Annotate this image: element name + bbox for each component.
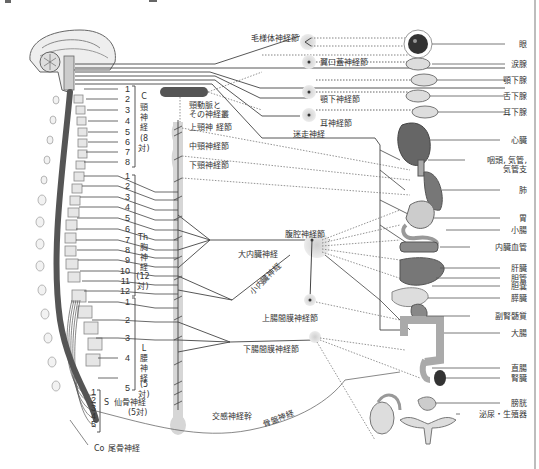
cervical-3: 3 (118, 106, 130, 115)
thoracic-7: 7 (118, 236, 130, 245)
cervical-5: 5 (118, 128, 130, 137)
organ-label-sublingual: 舌下腺 (503, 92, 527, 101)
thoracic-9: 9 (118, 256, 130, 265)
organ-label-lung: 肺 (519, 186, 527, 195)
cervical-1: 1 (118, 85, 130, 94)
sacral-code: S (104, 398, 109, 407)
organ-label-larynx-2: 気管支 (503, 165, 527, 174)
thoracic-1: 1 (118, 172, 130, 181)
organ-label-small-intestine: 小腸 (511, 226, 527, 235)
submandibular-ganglion-label: 顎下神経節 (320, 95, 360, 104)
cervical-count: (8対) (138, 134, 150, 154)
coccygeal-nerve-label: 尾骨神経 (108, 444, 140, 453)
thoracic-2: 2 (118, 182, 130, 191)
sublingual-gland-icon (406, 90, 430, 102)
organ-label-submandibular: 顎下腺 (503, 76, 527, 85)
cervical-7: 7 (118, 148, 130, 157)
inferior-cervical-ganglion-label: 下頸神経節 (189, 161, 229, 170)
coccygeal-code: Co (94, 444, 104, 453)
cervical-2: 2 (118, 95, 130, 104)
organ-label-parotid: 耳下腺 (503, 108, 527, 117)
organ-label-urogenital: 泌尿・生殖器 (479, 410, 527, 419)
organ-label-bladder: 膀胱 (511, 399, 527, 408)
pancreas-icon (392, 288, 428, 307)
sacral-5: 5 (84, 420, 96, 429)
sympathetic-trunk-label: 交感神経幹 (212, 412, 252, 421)
thoracic-12: 12 (114, 287, 130, 296)
carotid-artery-icon (160, 87, 208, 97)
kidney-icon (434, 370, 446, 386)
sacral-nerve-label: 仙骨神経 (114, 398, 146, 407)
stomach-icon (406, 201, 434, 228)
sacral-count: (5対) (128, 408, 147, 417)
organ-label-larynx-1: 咽頭, 気管, (487, 156, 527, 165)
testis-icon (370, 402, 394, 434)
thoracic-code: Th (136, 233, 150, 243)
organ-label-stomach: 胃 (519, 214, 527, 223)
organ-label-gallbladder: 胆嚢 (511, 282, 527, 291)
carotid-plexus-label-2: その神経叢 (189, 110, 229, 119)
spinal-column-icon (36, 92, 102, 420)
organ-label-visceral-vessels: 内臓血管 (495, 243, 527, 252)
organ-label-kidney: 腎臓 (511, 374, 527, 383)
lumbar-4: 4 (118, 354, 130, 363)
visceral-vessel-icon (400, 242, 438, 252)
thoracic-8: 8 (118, 246, 130, 255)
superior-mesenteric-ganglion-label: 上腸間膜神経節 (262, 314, 318, 323)
thoracic-nerve-label: 胸神経 (138, 243, 150, 273)
thoracic-count: (12対) (136, 272, 150, 292)
thoracic-11: 11 (114, 277, 130, 286)
thoracic-6: 6 (118, 225, 130, 234)
superior-cervical-ganglion-label: 上頸神 経節 (189, 123, 232, 132)
organ-label-heart: 心臓 (511, 136, 527, 145)
cervical-6: 6 (118, 138, 130, 147)
lumbar-3: 3 (118, 334, 130, 343)
inferior-mesenteric-ganglion-label: 下腸間膜神経節 (243, 345, 299, 354)
thoracic-4: 4 (118, 203, 130, 212)
organ-label-lacrimal: 涙腺 (511, 60, 527, 69)
lumbar-count: (5対) (138, 380, 150, 400)
heart-icon (398, 123, 430, 165)
eye-icon (408, 34, 428, 54)
cervical-nerve-label: 頸神経 (138, 103, 150, 133)
ciliary-ganglion-label: 毛様体神経節 (251, 34, 299, 43)
lumbar-5: 5 (118, 384, 130, 393)
middle-cervical-ganglion-label: 中頸神経節 (189, 142, 229, 151)
lacrimal-gland-icon (406, 58, 430, 70)
autonomic-nervous-system-diagram: 1 2 3 4 5 6 7 8 C 頸神経 (8対) 1 2 3 4 5 6 7… (0, 0, 539, 469)
large-intestine-icon (404, 320, 440, 362)
cervical-code: C (138, 92, 150, 102)
thoracic-10: 10 (114, 267, 130, 276)
cervical-8: 8 (118, 158, 130, 167)
celiac-ganglion-label: 腹腔神経節 (285, 230, 325, 239)
parotid-gland-icon (412, 106, 438, 118)
uterus-icon (400, 417, 456, 444)
organ-label-adrenal-medulla: 副腎髄質 (495, 312, 527, 321)
submandibular-gland-icon (411, 74, 437, 86)
organ-label-rectum: 直腸 (511, 364, 527, 373)
bladder-icon (418, 397, 436, 410)
thoracic-3: 3 (118, 193, 130, 202)
lumbar-code: L (138, 344, 150, 354)
otic-ganglion-label: 耳神経節 (320, 119, 352, 128)
greater-splanchnic-label: 大内臓神経 (238, 250, 278, 259)
brain-icon (30, 30, 116, 92)
pterygopalatine-ganglion-label: 翼口蓋神経節 (320, 58, 368, 67)
carotid-plexus-label-1: 頸動脈と (189, 101, 221, 110)
lumbar-2: 2 (118, 316, 130, 325)
lumbar-1: 1 (118, 298, 130, 307)
organ-label-large-intestine: 大腸 (511, 329, 527, 338)
thoracic-5: 5 (118, 214, 130, 223)
organ-label-pancreas: 膵臓 (511, 294, 527, 303)
diagram-artwork (0, 0, 539, 469)
organ-label-eye: 眼 (519, 40, 527, 49)
cervical-4: 4 (118, 117, 130, 126)
organ-label-liver: 肝臓 (511, 264, 527, 273)
vagus-nerve-label: 迷走神経 (293, 130, 325, 139)
liver-icon (400, 258, 444, 286)
